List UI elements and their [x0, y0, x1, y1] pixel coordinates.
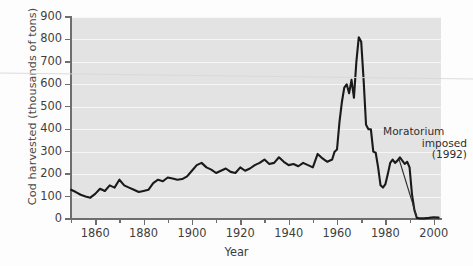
y-tick-400: [65, 129, 70, 130]
y-tick-200: [65, 173, 70, 174]
x-tick-minor-1930: [264, 219, 265, 223]
annotation-line-3: (1992): [383, 149, 471, 161]
y-tick-300: [65, 151, 70, 152]
x-tick-minor-1890: [168, 219, 169, 223]
y-tick-800: [65, 39, 70, 40]
y-tick-700: [65, 61, 70, 62]
y-tick-100: [65, 196, 70, 197]
annotation-leader-line: [399, 159, 417, 217]
x-tick-minor-1950: [313, 219, 314, 223]
y-tick-0: [65, 218, 70, 219]
x-tick-1940: [289, 219, 290, 225]
annotation-moratorium: Moratorium imposed (1992): [383, 126, 471, 161]
annotation-line-1: Moratorium: [383, 126, 471, 138]
y-tick-500: [65, 106, 70, 107]
x-tick-minor-1990: [410, 219, 411, 223]
x-tick-minor-1850: [71, 219, 72, 223]
x-tick-minor-1910: [216, 219, 217, 223]
x-tick-minor-1870: [119, 219, 120, 223]
y-tick-900: [65, 16, 70, 17]
x-tick-2000: [434, 219, 435, 225]
x-tick-1960: [337, 219, 338, 225]
x-axis-label: Year: [0, 245, 473, 259]
x-tick-1980: [385, 219, 386, 225]
x-tick-minor-1970: [361, 219, 362, 223]
x-tick-1900: [192, 219, 193, 225]
x-tick-1880: [144, 219, 145, 225]
x-tick-1860: [95, 219, 96, 225]
cod-harvest-chart: Cod harvested (thousands of tons) 010020…: [0, 0, 473, 266]
x-tick-1920: [240, 219, 241, 225]
y-tick-600: [65, 84, 70, 85]
